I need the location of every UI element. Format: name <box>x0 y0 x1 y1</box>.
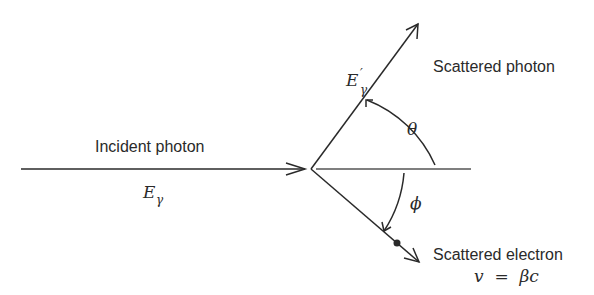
scattered-photon-energy-label: E ′ γ <box>345 67 368 97</box>
compton-scattering-diagram: Incident photon E γ Scattered photon E ′… <box>0 0 594 295</box>
phi-angle-arc <box>382 173 404 231</box>
electron-dot <box>394 240 401 247</box>
svg-text:E: E <box>345 70 359 90</box>
electron-velocity-label: v = βc <box>474 266 539 286</box>
incident-photon-label: Incident photon <box>95 138 204 155</box>
scattered-electron-label: Scattered electron <box>433 246 563 263</box>
svg-text:E: E <box>142 182 156 202</box>
svg-text:γ: γ <box>360 83 368 97</box>
incident-energy-label: E γ <box>142 182 164 207</box>
theta-angle-arc <box>366 100 435 165</box>
scattered-photon-label: Scattered photon <box>433 58 555 75</box>
phi-label: ϕ <box>410 193 422 213</box>
svg-text:′: ′ <box>360 67 363 81</box>
theta-label: θ <box>407 119 417 139</box>
incident-photon-arrow <box>21 163 305 175</box>
svg-text:γ: γ <box>156 193 164 207</box>
